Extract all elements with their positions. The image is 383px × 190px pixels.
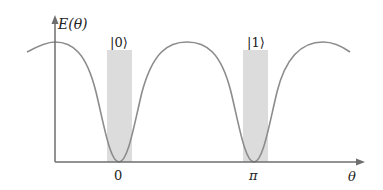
energy-curve	[27, 42, 350, 162]
y-axis-label: E(θ)	[58, 17, 88, 31]
energy-diagram: E(θ) |0⟩ |1⟩ 0 π θ	[0, 0, 383, 190]
state-0-band	[107, 50, 132, 162]
x-axis-label: θ	[348, 170, 356, 183]
x-axis-arrow-icon	[356, 159, 365, 166]
state-0-label: |0⟩	[110, 36, 128, 49]
tick-label-0: 0	[114, 169, 122, 182]
tick-label-pi: π	[249, 169, 258, 182]
state-1-label: |1⟩	[247, 36, 265, 49]
